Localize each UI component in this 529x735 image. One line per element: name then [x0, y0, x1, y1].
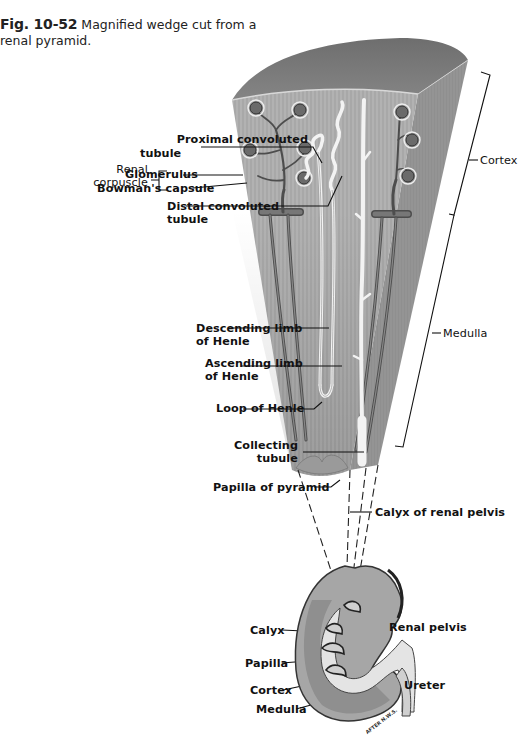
label-cortex-region: Cortex — [480, 154, 518, 167]
label-bowmans-capsule: Bowman's capsule — [97, 182, 215, 195]
label-renal-pelvis: Renal pelvis — [389, 621, 467, 634]
kidney-cross-section — [295, 566, 415, 721]
label-papilla: Papilla — [245, 657, 288, 670]
label-kidney-medulla: Medulla — [256, 703, 307, 716]
label-loop-of-henle: Loop of Henle — [216, 402, 305, 415]
label-line: of Henle — [205, 370, 303, 383]
label-line: of Henle — [196, 335, 302, 348]
label-proximal-convoluted-tubule-line2: tubule — [140, 147, 181, 160]
label-proximal-convoluted-tubule: Proximal convoluted — [108, 133, 308, 146]
label-line: Descending limb — [196, 322, 302, 335]
label-descending-limb: Descending limb of Henle — [196, 322, 302, 348]
label-line: tubule — [228, 452, 298, 465]
label-line: tubule — [167, 213, 279, 226]
label-line: Ascending limb — [205, 357, 303, 370]
label-ureter: Ureter — [404, 679, 445, 692]
label-line: Distal convoluted — [167, 200, 279, 213]
label-line: Collecting — [228, 439, 298, 452]
label-collecting-tubule: Collecting tubule — [228, 439, 298, 465]
label-kidney-cortex: Cortex — [250, 684, 292, 697]
label-line: Proximal convoluted — [108, 133, 308, 146]
label-distal-convoluted-tubule: Distal convoluted tubule — [167, 200, 279, 226]
label-calyx-of-renal-pelvis: Calyx of renal pelvis — [375, 506, 505, 519]
label-medulla-region: Medulla — [443, 327, 488, 340]
label-papilla-of-pyramid: Papilla of pyramid — [213, 481, 330, 494]
label-calyx: Calyx — [250, 624, 285, 637]
label-glomerulus: Glomerulus — [125, 168, 198, 181]
label-ascending-limb: Ascending limb of Henle — [205, 357, 303, 383]
